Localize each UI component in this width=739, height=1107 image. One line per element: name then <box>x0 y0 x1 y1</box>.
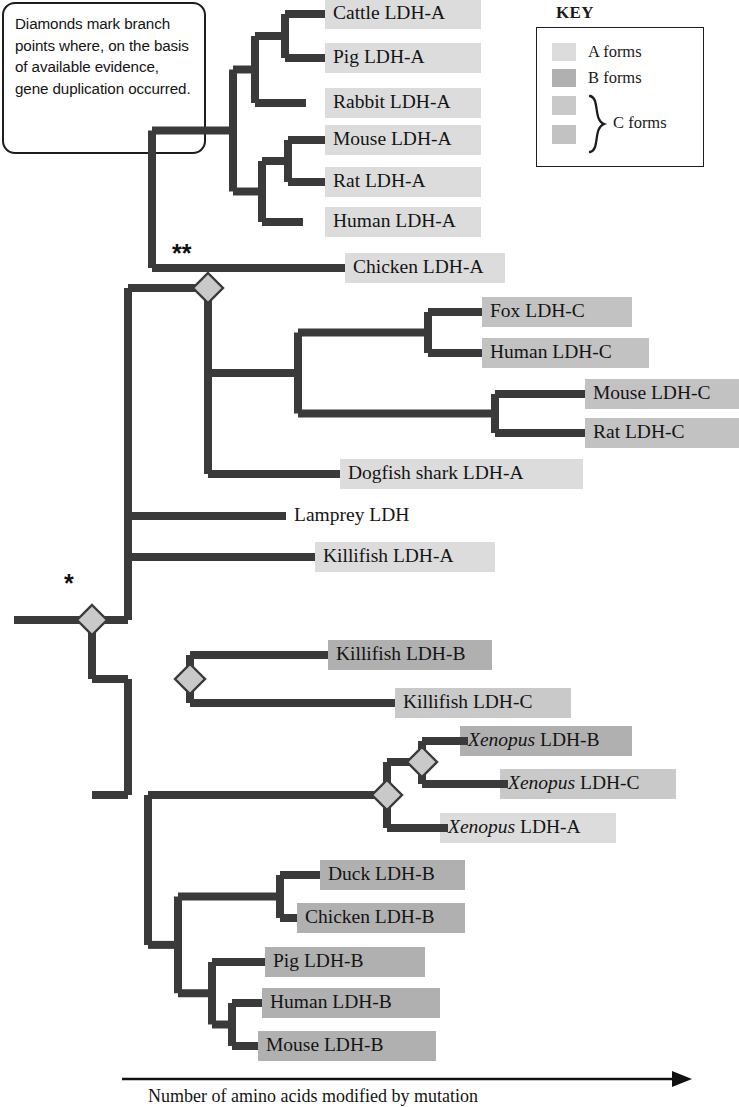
gene-duplication-diamond[interactable] <box>372 780 402 810</box>
tip-label: Pig LDH-A <box>333 46 425 67</box>
tip-label: Mouse LDH-A <box>333 128 452 149</box>
tip-label: Fox LDH-C <box>490 300 585 321</box>
tip-label: Killifish LDH-A <box>323 545 454 566</box>
tip-label: Rat LDH-A <box>333 170 426 191</box>
tip-labels: Cattle LDH-APig LDH-ARabbit LDH-AMouse L… <box>266 2 711 1055</box>
axis-arrow <box>122 1071 692 1087</box>
tip-label: Lamprey LDH <box>294 504 409 525</box>
tip-label: Killifish LDH-C <box>403 691 532 712</box>
tip-label: Xenopus LDH-B <box>467 729 600 750</box>
tree-branches <box>14 14 585 1046</box>
tip-label: Cattle LDH-A <box>333 2 445 23</box>
gene-duplication-diamond[interactable] <box>77 605 107 635</box>
gene-duplication-diamond[interactable] <box>175 664 205 694</box>
tip-label: Rabbit LDH-A <box>333 91 451 112</box>
tip-label: Chicken LDH-B <box>305 906 434 927</box>
tip-label: Xenopus LDH-C <box>507 772 640 793</box>
tip-label: Mouse LDH-C <box>593 382 711 403</box>
tip-label: Killifish LDH-B <box>336 643 465 664</box>
tip-label: Human LDH-A <box>333 210 456 231</box>
tip-label: Pig LDH-B <box>273 950 363 971</box>
tip-label: Duck LDH-B <box>328 863 435 884</box>
gene-duplication-diamond[interactable] <box>193 273 223 303</box>
axis-caption: Number of amino acids modified by mutati… <box>148 1086 478 1107</box>
tip-label: Human LDH-B <box>270 991 392 1012</box>
tip-label: Dogfish shark LDH-A <box>348 462 523 483</box>
tip-label: Xenopus LDH-A <box>447 816 581 837</box>
tip-label: Rat LDH-C <box>593 421 685 442</box>
tip-highlight-bars <box>258 0 739 1061</box>
gene-duplication-diamond[interactable] <box>407 747 437 777</box>
duplication-asterisk-marker: * <box>64 569 74 597</box>
tip-label: Mouse LDH-B <box>266 1034 384 1055</box>
tip-label: Human LDH-C <box>490 341 612 362</box>
tip-label: Chicken LDH-A <box>353 256 484 277</box>
duplication-asterisk-marker: ** <box>172 239 192 267</box>
